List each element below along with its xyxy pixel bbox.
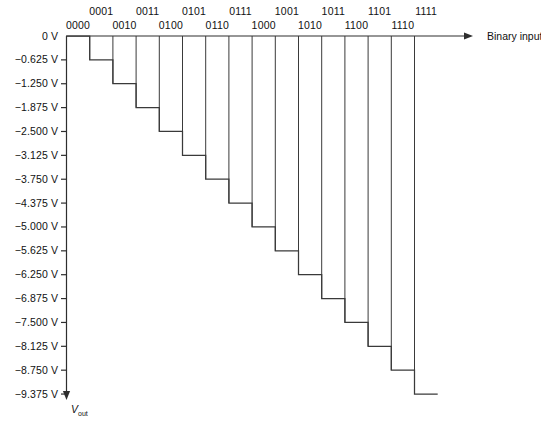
y-axis-title-sub: out — [78, 410, 88, 417]
x-tick-label-0110: 0110 — [199, 20, 235, 31]
x-tick-label-0100: 0100 — [153, 20, 189, 31]
y-tick-label-12: −7.500 V — [0, 317, 58, 328]
x-tick-label-1011: 1011 — [315, 6, 351, 17]
y-tick-label-11: −6.875 V — [0, 293, 58, 304]
x-tick-label-0000: 0000 — [60, 20, 96, 31]
y-tick-label-2: −1.250 V — [0, 78, 58, 89]
y-tick-label-4: −2.500 V — [0, 126, 58, 137]
x-tick-label-1001: 1001 — [269, 6, 305, 17]
y-tick-label-8: −5.000 V — [0, 221, 58, 232]
y-tick-label-14: −8.750 V — [0, 365, 58, 376]
y-tick-label-6: −3.750 V — [0, 174, 58, 185]
y-tick-label-1: −0.625 V — [0, 54, 58, 65]
x-tick-label-1111: 1111 — [408, 6, 444, 17]
y-axis-title-main: V — [71, 403, 78, 415]
x-tick-label-1010: 1010 — [292, 20, 328, 31]
x-tick-label-1000: 1000 — [246, 20, 282, 31]
y-tick-marks — [61, 60, 67, 394]
x-tick-label-0111: 0111 — [223, 6, 259, 17]
y-tick-label-3: −1.875 V — [0, 102, 58, 113]
x-tick-label-1101: 1101 — [362, 6, 398, 17]
y-tick-label-9: −5.625 V — [0, 245, 58, 256]
x-tick-label-0011: 0011 — [130, 6, 166, 17]
x-tick-label-0010: 0010 — [107, 20, 143, 31]
x-axis-arrowhead — [464, 32, 473, 39]
y-tick-label-0: 0 V — [0, 31, 58, 42]
axes-group — [63, 32, 473, 400]
x-tick-label-0001: 0001 — [83, 6, 119, 17]
y-axis-arrowhead — [63, 391, 70, 400]
x-tick-label-1100: 1100 — [339, 20, 375, 31]
y-tick-label-15: −9.375 V — [0, 389, 58, 400]
y-tick-label-10: −6.250 V — [0, 269, 58, 280]
y-tick-label-5: −3.125 V — [0, 150, 58, 161]
y-tick-label-7: −4.375 V — [0, 198, 58, 209]
x-axis-title: Binary input — [487, 31, 541, 42]
dac-staircase-plot — [0, 0, 541, 423]
chart-figure: 0 V−0.625 V−1.250 V−1.875 V−2.500 V−3.12… — [0, 0, 541, 423]
y-axis-title: Vout — [71, 403, 88, 417]
x-tick-label-0101: 0101 — [176, 6, 212, 17]
y-tick-label-13: −8.125 V — [0, 341, 58, 352]
x-tick-label-1110: 1110 — [385, 20, 421, 31]
